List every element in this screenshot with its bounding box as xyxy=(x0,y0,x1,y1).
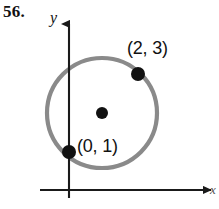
y-axis-label: y xyxy=(50,9,57,27)
y-intercept-point-label: (0, 1) xyxy=(77,136,118,157)
upper-right-point-label: (2, 3) xyxy=(127,38,168,59)
coordinate-plane-graphic xyxy=(0,0,219,209)
figure-container: 56. y x (2, 3) (0, 1) xyxy=(0,0,219,209)
upper-right-point-marker xyxy=(131,67,145,81)
center-point-marker xyxy=(96,107,108,119)
x-axis-label: x xyxy=(210,182,216,198)
y-intercept-point-marker xyxy=(62,145,76,159)
